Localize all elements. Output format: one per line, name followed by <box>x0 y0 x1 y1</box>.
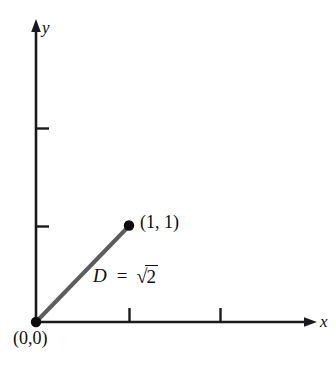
origin-point-marker <box>31 317 41 327</box>
equals-sign: = <box>117 266 128 285</box>
point-1-1-marker <box>124 220 134 230</box>
y-axis-label: y <box>42 19 50 36</box>
distance-variable: D <box>93 266 107 285</box>
radical-sign-icon: √ <box>136 266 147 287</box>
plot-canvas <box>0 0 336 366</box>
x-axis-label: x <box>320 313 328 330</box>
x-axis-arrowhead <box>304 317 317 327</box>
square-root-expression: √ 2 <box>136 265 157 286</box>
distance-diagram: y x (1, 1) (0,0) D = √ 2 <box>0 0 336 366</box>
distance-equation-label: D = √ 2 <box>93 265 158 286</box>
y-axis-arrowhead <box>31 19 41 32</box>
point-coordinate-label: (1, 1) <box>140 213 179 231</box>
origin-coordinate-label: (0,0) <box>13 329 48 347</box>
